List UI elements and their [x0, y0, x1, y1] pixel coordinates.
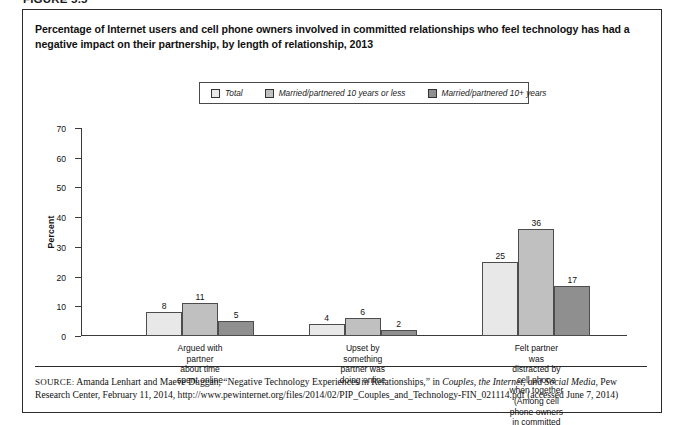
bar[interactable]: 17	[554, 286, 590, 337]
bar[interactable]: 8	[146, 312, 182, 336]
legend-swatch-total	[211, 89, 220, 98]
bar[interactable]: 25	[482, 262, 518, 336]
figure-number: FIGURE 5.5	[23, 0, 88, 5]
y-tick: 40	[75, 217, 81, 218]
y-tick-label: 20	[56, 273, 66, 283]
legend-swatch-10-years-or-less	[265, 89, 274, 98]
bar-value-label: 4	[324, 313, 329, 323]
source-divider	[35, 366, 647, 367]
bar-group: 253617Felt partner was distracted by cel…	[482, 128, 590, 336]
bar[interactable]: 2	[381, 330, 417, 336]
y-tick: 10	[75, 306, 81, 307]
bar-value-label: 36	[532, 218, 542, 228]
legend-label-10-plus-years: Married/partnered 10+ years	[442, 88, 547, 98]
bar[interactable]: 6	[345, 318, 381, 336]
legend-label-total: Total	[225, 88, 243, 98]
y-tick: 0	[75, 336, 81, 337]
bar-group: 8115Argued with partner about time spent…	[146, 128, 254, 336]
source-note: SOURCE: Amanda Lenhart and Maeve Duggan,…	[35, 376, 649, 401]
bar[interactable]: 36	[518, 229, 554, 336]
legend-item-total[interactable]: Total	[211, 88, 243, 98]
y-tick-label: 50	[56, 183, 66, 193]
y-tick: 50	[75, 187, 81, 188]
figure-frame: Percentage of Internet users and cell ph…	[22, 9, 662, 413]
y-tick: 60	[75, 158, 81, 159]
legend-swatch-10-plus-years	[428, 89, 437, 98]
y-tick: 20	[75, 277, 81, 278]
plot-area: Percent 010203040506070 8115Argued with …	[81, 128, 627, 336]
source-text-before: Amanda Lenhart and Maeve Duggan, “Negati…	[74, 376, 442, 387]
y-axis-line	[81, 128, 82, 336]
y-tick-label: 10	[56, 302, 66, 312]
y-tick-label: 60	[56, 154, 66, 164]
bar-value-label: 17	[568, 275, 578, 285]
y-tick: 70	[75, 128, 81, 129]
bar-value-label: 2	[396, 319, 401, 329]
bar-value-label: 11	[196, 292, 205, 302]
bar-value-label: 25	[496, 251, 506, 261]
y-axis-label: Percent	[46, 216, 56, 249]
bar[interactable]: 5	[218, 321, 254, 336]
y-tick-label: 70	[56, 124, 66, 134]
bar-group: 462Upset by something partner was doing …	[309, 128, 417, 336]
y-tick-label: 40	[56, 213, 66, 223]
bar-value-label: 6	[360, 307, 365, 317]
chart-legend: Total Married/partnered 10 years or less…	[199, 82, 529, 104]
bar[interactable]: 4	[309, 324, 345, 336]
legend-item-10-years-or-less[interactable]: Married/partnered 10 years or less	[265, 88, 406, 98]
y-tick-label: 30	[56, 243, 66, 253]
bar-value-label: 8	[162, 301, 167, 311]
legend-label-10-years-or-less: Married/partnered 10 years or less	[279, 88, 406, 98]
figure-title: Percentage of Internet users and cell ph…	[35, 22, 647, 51]
y-tick-label: 0	[61, 332, 66, 342]
bar[interactable]: 11	[182, 303, 218, 336]
source-publication-title: Couples, the Internet, and Social Media	[442, 376, 595, 387]
source-prefix: SOURCE:	[35, 377, 74, 387]
legend-item-10-plus-years[interactable]: Married/partnered 10+ years	[428, 88, 547, 98]
y-tick: 30	[75, 247, 81, 248]
bar-value-label: 5	[234, 310, 239, 320]
